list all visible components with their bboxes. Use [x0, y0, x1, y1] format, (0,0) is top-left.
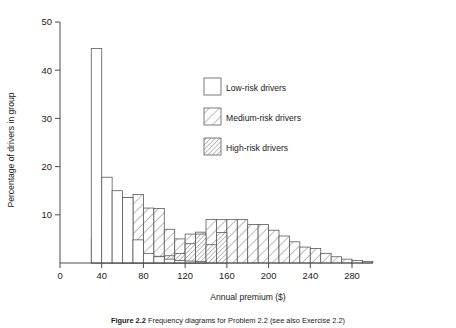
histogram-bar [185, 244, 195, 263]
histogram-bar [143, 253, 153, 263]
histogram-bar [310, 249, 320, 263]
y-tick-label: 50 [42, 16, 52, 27]
plot-area [91, 49, 373, 263]
figure-container: 102030405004080120160200240280 Low-risk … [0, 0, 456, 328]
figure-caption: Figure 2.2 Frequency diagrams for Proble… [0, 316, 456, 326]
x-tick-label: 160 [219, 270, 235, 281]
histogram-bar [321, 253, 331, 263]
histogram-bar [133, 240, 143, 263]
histogram-bar [91, 49, 101, 263]
x-tick-label: 0 [57, 270, 62, 281]
histogram-bar [227, 220, 237, 263]
y-tick-label: 30 [42, 113, 52, 124]
histogram-bar [248, 224, 258, 263]
histogram-bar [154, 257, 164, 263]
y-tick-label: 20 [42, 161, 52, 172]
chart-legend: Low-risk driversMedium-risk driversHigh-… [204, 78, 301, 155]
legend-label: High-risk drivers [226, 143, 288, 153]
caption-text: Frequency diagrams for Problem 2.2 (see … [148, 316, 345, 325]
histogram-bar [279, 236, 289, 263]
histogram-bar [258, 224, 268, 263]
histogram-chart: 102030405004080120160200240280 Low-risk … [0, 0, 456, 316]
legend-label: Low-risk drivers [226, 83, 286, 93]
histogram-bar [123, 197, 133, 263]
caption-prefix: Figure 2.2 [111, 316, 146, 325]
histogram-bar [102, 177, 112, 263]
legend-swatch [204, 138, 221, 155]
y-tick-label: 10 [42, 209, 52, 220]
legend-item: Medium-risk drivers [204, 108, 301, 125]
x-tick-label: 200 [261, 270, 277, 281]
histogram-bar [237, 220, 247, 263]
y-tick-label: 40 [42, 65, 52, 76]
x-axis-title: Annual premium ($) [210, 292, 286, 302]
x-tick-label: 240 [302, 270, 318, 281]
histogram-bar [196, 234, 206, 263]
histogram-bar [206, 245, 216, 263]
x-tick-label: 80 [138, 270, 148, 281]
x-tick-label: 40 [96, 270, 106, 281]
legend-label: Medium-risk drivers [226, 113, 301, 123]
histogram-bar [300, 247, 310, 263]
x-tick-label: 120 [177, 270, 193, 281]
x-tick-label: 280 [344, 270, 360, 281]
histogram-bar [164, 259, 174, 263]
legend-item: High-risk drivers [204, 138, 288, 155]
histogram-bar [269, 230, 279, 263]
histogram-bar [216, 233, 226, 263]
y-axis-title: Percentage of drivers in group [6, 92, 16, 207]
histogram-bar [154, 209, 164, 263]
legend-item: Low-risk drivers [204, 78, 286, 95]
histogram-bar [342, 259, 352, 263]
legend-swatch [204, 108, 221, 125]
legend-swatch [204, 78, 221, 95]
histogram-bar [331, 257, 341, 263]
histogram-bar [289, 242, 299, 263]
histogram-bar [112, 191, 122, 263]
